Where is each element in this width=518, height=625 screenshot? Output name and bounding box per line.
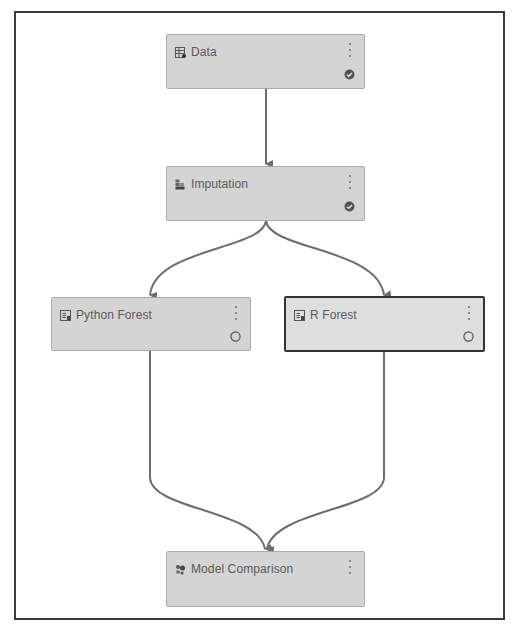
check-circle-icon: [344, 69, 355, 80]
node-menu-icon[interactable]: [347, 175, 353, 189]
node-menu-icon[interactable]: [347, 560, 353, 574]
node-label: R Forest: [310, 308, 357, 322]
check-circle-icon: [344, 201, 355, 212]
node-menu-icon[interactable]: [466, 306, 472, 320]
node-label: Imputation: [191, 177, 248, 191]
empty-circle-icon: [463, 331, 474, 342]
node-model-comparison[interactable]: Model Comparison: [166, 551, 365, 607]
code-node-icon: [60, 310, 71, 321]
code-node-icon: [294, 310, 305, 321]
node-r-forest[interactable]: R Forest: [284, 296, 485, 352]
node-label: Model Comparison: [191, 562, 293, 576]
node-menu-icon[interactable]: [347, 43, 353, 57]
node-data[interactable]: Data: [166, 34, 365, 89]
node-imputation[interactable]: Imputation: [166, 166, 365, 221]
node-menu-icon[interactable]: [233, 306, 239, 320]
node-python-forest[interactable]: Python Forest: [51, 297, 251, 351]
model-comparison-icon: [175, 564, 186, 575]
data-table-icon: [175, 47, 186, 58]
node-label: Python Forest: [76, 308, 152, 322]
imputation-icon: [175, 179, 186, 190]
node-label: Data: [191, 45, 217, 59]
empty-circle-icon: [230, 331, 241, 342]
